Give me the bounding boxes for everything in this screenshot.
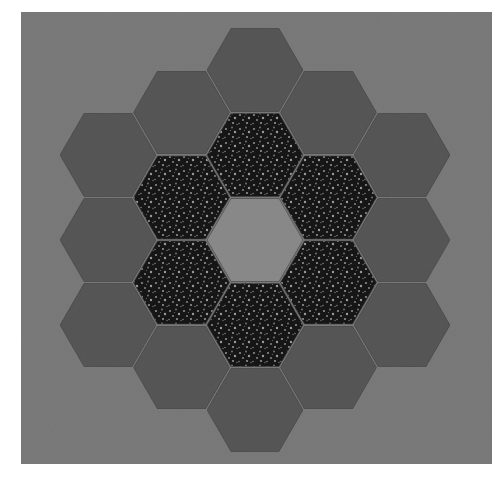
- quilt-canvas: [0, 0, 502, 479]
